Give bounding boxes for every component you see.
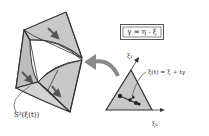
axis-xi1-label: ξ₁: [127, 52, 133, 59]
simplex-triangle: [106, 57, 165, 112]
mapping-arrow-icon: [84, 54, 118, 76]
surface-label: S²(ξ(t)): [14, 111, 39, 119]
simplex-path-label: ξ(t) = ξ + tγ: [148, 68, 185, 75]
gamma-formula-box: γ = η - ξ: [120, 24, 164, 40]
axis-xi0-label: ξ₀: [152, 120, 158, 127]
